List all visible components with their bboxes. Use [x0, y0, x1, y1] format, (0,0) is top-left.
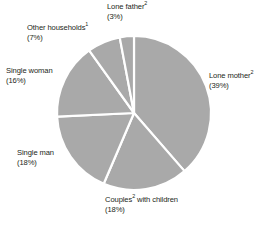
pie-label-single-woman-name: Single woman [6, 66, 53, 76]
pie-label-couples-with-children: Couples2 with children (18%) [105, 195, 178, 215]
pie-label-other-households: Other households1 (7%) [27, 23, 88, 43]
footnote-marker: 1 [85, 21, 88, 27]
pie-label-single-man-name: Single man [17, 148, 54, 158]
pie-label-single-woman-value: (16%) [6, 76, 53, 86]
pie-label-single-woman: Single woman (16%) [6, 66, 53, 86]
pie-slices-group [57, 36, 211, 190]
pie-label-single-man-value: (18%) [17, 158, 54, 168]
pie-label-lone-father: Lone father2 (3%) [107, 2, 147, 22]
pie-chart-figure: Lone father2 (3%) Other households1 (7%)… [0, 0, 271, 227]
pie-label-other-households-name: Other households1 [27, 23, 88, 33]
pie-label-lone-father-value: (3%) [107, 12, 147, 22]
pie-label-other-households-value: (7%) [27, 33, 88, 43]
pie-label-lone-mother: Lone mother2 (39%) [209, 71, 253, 91]
pie-label-couples-with-children-value: (18%) [105, 205, 178, 215]
pie-label-single-man: Single man (18%) [17, 148, 54, 168]
footnote-marker: 2 [144, 0, 147, 6]
pie-label-couples-with-children-name: Couples2 with children [105, 195, 178, 205]
footnote-marker: 2 [251, 69, 254, 75]
pie-label-lone-mother-name: Lone mother2 [209, 71, 253, 81]
pie-label-lone-father-name: Lone father2 [107, 2, 147, 12]
pie-label-lone-mother-value: (39%) [209, 81, 253, 91]
